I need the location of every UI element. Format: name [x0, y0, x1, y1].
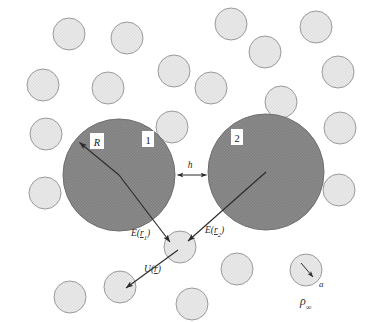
figure-root: R 1 2 h E(r1) E(r2) U(r) a ρ∞ [0, 0, 380, 322]
depletant-particle-U-target [104, 271, 136, 303]
depletant-particle [215, 8, 247, 40]
depletant-particle [221, 253, 253, 285]
gap-label-h: h [188, 160, 193, 170]
probe-particle-r [164, 231, 196, 263]
depletion-diagram: R 1 2 h E(r1) E(r2) U(r) a ρ∞ [0, 0, 380, 322]
reference-particle-radius-a [290, 254, 322, 286]
depletant-particle [249, 36, 281, 68]
small-radius-label-a: a [319, 279, 324, 289]
depletant-particle [158, 55, 190, 87]
depletant-particle [324, 112, 356, 144]
depletant-particle [195, 72, 227, 104]
depletant-particle [176, 288, 208, 320]
depletant-particle [265, 86, 297, 118]
depletant-particle [322, 56, 354, 88]
radius-label-R: R [93, 137, 101, 148]
depletant-particle [29, 177, 61, 209]
depletant-particle [27, 69, 59, 101]
depletant-particle [111, 22, 143, 54]
sphere-1-label: 1 [145, 135, 150, 146]
depletant-particle [300, 11, 332, 43]
depletant-particle [54, 281, 86, 313]
potential-label-U: U(r) [144, 264, 161, 275]
rho-subscript: ∞ [306, 303, 312, 312]
depletant-particle [53, 18, 85, 50]
depletant-particle [92, 72, 124, 104]
depletant-particle [30, 118, 62, 150]
sphere-2-label: 2 [234, 133, 239, 144]
depletant-particle [323, 174, 355, 206]
